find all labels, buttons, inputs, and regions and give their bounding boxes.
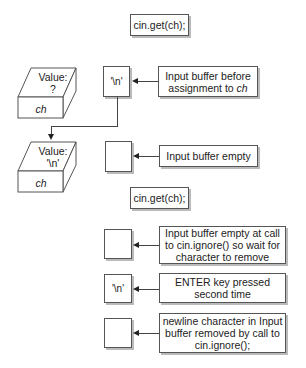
- buffer-note-1: Input buffer before assignment to ch: [158, 66, 258, 97]
- connector-line: [139, 245, 159, 246]
- variable-value: '\n': [27, 157, 79, 169]
- buffer-content: '\n': [110, 76, 122, 87]
- input-buffer-cell-2: [105, 141, 132, 172]
- arrow-icon: [48, 134, 54, 140]
- input-buffer-cell-4: '\n': [104, 274, 132, 303]
- connector-line: [139, 289, 159, 290]
- connector-line: [139, 333, 159, 334]
- connector-line: [138, 81, 158, 82]
- note-text: Input buffer empty: [166, 150, 250, 162]
- note-text: newline character in Input buffer remove…: [160, 315, 285, 351]
- statement-label: cin.get(ch);: [134, 192, 186, 204]
- statement-cin-get-1: cin.get(ch);: [130, 14, 189, 36]
- connector-line: [117, 97, 118, 127]
- variable-value-label: Value:: [27, 71, 79, 83]
- variable-ch-before: Value: ? ch: [17, 67, 79, 119]
- buffer-note-3: Input buffer empty at call to cin.ignore…: [159, 226, 286, 264]
- input-buffer-cell-3: [104, 229, 132, 259]
- statement-cin-get-2: cin.get(ch);: [130, 187, 189, 209]
- note-text: ENTER key pressed second time: [160, 276, 285, 300]
- input-buffer-cell-1: '\n': [103, 66, 130, 97]
- variable-value: ?: [27, 83, 79, 95]
- buffer-note-2: Input buffer empty: [159, 145, 258, 167]
- connector-line: [139, 156, 159, 157]
- variable-value-label: Value:: [27, 145, 79, 157]
- variable-name: ch: [18, 177, 64, 189]
- connector-line: [51, 126, 52, 134]
- statement-label: cin.get(ch);: [134, 19, 186, 31]
- input-buffer-cell-5: [104, 318, 132, 348]
- note-text: Input buffer before assignment to ch: [159, 70, 257, 94]
- buffer-note-4: ENTER key pressed second time: [159, 273, 286, 303]
- note-text: Input buffer empty at call to cin.ignore…: [160, 227, 285, 263]
- connector-line: [51, 126, 118, 127]
- variable-name: ch: [18, 103, 64, 115]
- variable-ch-after: Value: '\n' ch: [17, 141, 79, 193]
- buffer-content: '\n': [112, 283, 124, 294]
- buffer-note-5: newline character in Input buffer remove…: [159, 313, 286, 353]
